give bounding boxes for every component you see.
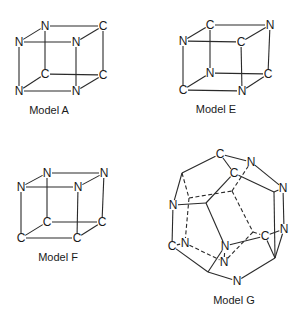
bond-line (102, 178, 104, 217)
bond-line (206, 203, 223, 241)
atom-label-n: N (41, 19, 50, 33)
bond-line (239, 175, 274, 192)
model-e-diagram: CNNCNCCN (179, 18, 275, 98)
atom-label-n: N (279, 181, 288, 195)
atom-label-c: C (216, 147, 225, 161)
hidden-bond-line (182, 173, 189, 198)
bond-line (174, 173, 182, 200)
bond-line (187, 76, 206, 88)
bond-line (188, 41, 236, 42)
atom-label-c: C (73, 231, 82, 245)
atom-label-n: N (15, 35, 24, 49)
hidden-bond-line (227, 232, 253, 258)
atom-label-c: C (43, 215, 52, 229)
atom-label-c: C (179, 83, 188, 97)
atom-label-c: C (41, 67, 50, 81)
atom-label-n: N (233, 274, 242, 288)
bond-line (206, 177, 231, 203)
atom-label-n: N (206, 66, 215, 80)
bond-line (245, 28, 265, 40)
atom-label-n: N (169, 198, 178, 212)
hidden-bond-line (253, 232, 260, 234)
bond-line (230, 237, 260, 245)
atom-label-n: N (221, 239, 230, 253)
atom-label-c: C (99, 19, 108, 33)
atom-label-n: N (72, 35, 81, 49)
bond-line (268, 30, 270, 69)
bond-line (283, 193, 284, 224)
bond-line (178, 203, 206, 205)
atom-label-n: N (179, 34, 188, 48)
bond-line (23, 77, 41, 89)
bond-line (215, 73, 263, 74)
model-a-caption: Model A (29, 104, 69, 116)
hidden-bond-line (189, 245, 219, 260)
bond-line (187, 28, 205, 39)
bond-line (25, 225, 42, 236)
atom-label-c: C (17, 231, 26, 245)
hidden-bond-line (232, 191, 253, 232)
atom-label-c: C (237, 35, 246, 49)
bond-line (225, 155, 246, 161)
bond-line (25, 175, 42, 184)
bond-line (81, 225, 98, 236)
atom-label-c: C (99, 68, 108, 82)
atom-label-n: N (100, 166, 109, 180)
atom-label-n: N (43, 166, 52, 180)
atom-label-n: N (238, 84, 247, 98)
atom-label-n: N (220, 255, 229, 269)
atom-label-n: N (181, 236, 190, 250)
model-g-diagram: CNCNNCNCNNNN (168, 147, 289, 288)
bond-line (267, 241, 275, 258)
bond-line (172, 210, 173, 241)
hidden-bond-line (177, 244, 180, 245)
atom-label-c: C (261, 229, 270, 243)
atom-label-n: N (74, 180, 83, 194)
bond-line (274, 192, 275, 258)
bond-line (188, 90, 237, 91)
bond-line (208, 272, 232, 280)
bond-line (80, 78, 98, 89)
atom-label-n: N (247, 155, 256, 169)
molecular-models-figure: NCNNCCNN CNNCNCCN NNNNCCCC CNCNNCNCNNNN … (0, 0, 306, 321)
model-f-diagram: NNNNCCCC (17, 166, 109, 245)
atom-label-n: N (15, 84, 24, 98)
bond-line (241, 47, 242, 86)
bond-line (23, 29, 40, 40)
bond-line (50, 74, 98, 75)
atom-label-n: N (266, 18, 275, 32)
atom-label-n: N (17, 180, 26, 194)
atom-label-n: N (280, 222, 289, 236)
bond-line (275, 234, 283, 258)
model-f-caption: Model F (38, 251, 78, 263)
bond-line (241, 258, 275, 278)
bond-line (82, 175, 99, 184)
atom-label-c: C (206, 18, 215, 32)
atom-label-c: C (168, 239, 177, 253)
bond-line (80, 29, 98, 40)
hidden-bond-line (189, 191, 232, 198)
model-g-caption: Model G (213, 294, 255, 306)
atom-label-c: C (98, 215, 107, 229)
bond-line (255, 165, 279, 185)
atom-label-c: C (230, 166, 239, 180)
bond-line (182, 156, 216, 173)
bond-line (77, 192, 78, 233)
atom-label-c: C (264, 67, 273, 81)
atom-label-n: N (72, 84, 81, 98)
model-a-diagram: NCNNCCNN (15, 19, 108, 98)
model-e-caption: Model E (196, 103, 236, 115)
bond-line (246, 77, 264, 89)
